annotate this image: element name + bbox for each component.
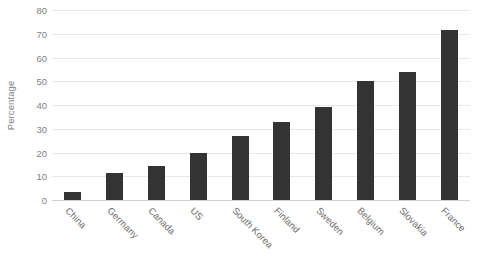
- y-axis-tick-label: 70: [36, 28, 47, 39]
- x-axis-tick-label: France: [439, 205, 468, 234]
- bar: [148, 166, 165, 200]
- bar: [190, 153, 207, 201]
- bar-slot: [52, 10, 94, 200]
- x-axis-tick-label: Sweden: [314, 205, 346, 237]
- x-tick-slot: US: [177, 201, 219, 267]
- x-tick-slot: China: [52, 201, 94, 267]
- y-axis-tick-label: 20: [36, 147, 47, 158]
- bar: [232, 136, 249, 200]
- y-axis-title: Percentage: [0, 0, 22, 210]
- bar-slot: [428, 10, 470, 200]
- x-axis-tick-label: Belgium: [356, 205, 388, 237]
- x-tick-slot: France: [428, 201, 470, 267]
- bar: [64, 192, 81, 200]
- bar-slot: [261, 10, 303, 200]
- y-axis-tick-label: 60: [36, 52, 47, 63]
- x-axis-tick-label: China: [63, 205, 88, 230]
- bar-slot: [386, 10, 428, 200]
- bar-slot: [177, 10, 219, 200]
- bars-layer: [52, 10, 470, 200]
- bar-slot: [94, 10, 136, 200]
- x-axis-tick-label: Finland: [272, 205, 302, 235]
- bar-slot: [219, 10, 261, 200]
- y-axis-title-text: Percentage: [6, 80, 17, 130]
- x-axis-tick-labels: ChinaGermanyCanadaUSSouth KoreaFinlandSw…: [52, 201, 470, 267]
- x-tick-slot: Finland: [261, 201, 303, 267]
- x-tick-slot: Sweden: [303, 201, 345, 267]
- bar: [106, 173, 123, 200]
- plot-area: [52, 10, 470, 200]
- y-axis-tick-label: 10: [36, 171, 47, 182]
- bar: [441, 30, 458, 200]
- bar-slot: [136, 10, 178, 200]
- bar-slot: [303, 10, 345, 200]
- y-axis-tick-label: 50: [36, 76, 47, 87]
- x-tick-slot: Slovakia: [386, 201, 428, 267]
- bar: [399, 72, 416, 200]
- x-axis-tick-label: Slovakia: [397, 205, 430, 238]
- bar: [315, 107, 332, 200]
- x-tick-slot: Belgium: [345, 201, 387, 267]
- bar: [273, 122, 290, 200]
- x-tick-slot: Germany: [94, 201, 136, 267]
- y-axis-tick-label: 80: [36, 5, 47, 16]
- y-axis-tick-label: 40: [36, 100, 47, 111]
- x-axis-tick-label: US: [189, 205, 206, 222]
- y-axis-tick-label: 0: [42, 195, 47, 206]
- bar-slot: [345, 10, 387, 200]
- x-tick-slot: Canada: [136, 201, 178, 267]
- x-tick-slot: South Korea: [219, 201, 261, 267]
- bar: [357, 81, 374, 200]
- x-axis-tick-label: Canada: [147, 205, 178, 236]
- bar-chart: Percentage 80706050403020100 ChinaGerman…: [0, 0, 490, 272]
- y-axis-tick-label: 30: [36, 123, 47, 134]
- y-axis-tick-labels: 80706050403020100: [22, 10, 50, 200]
